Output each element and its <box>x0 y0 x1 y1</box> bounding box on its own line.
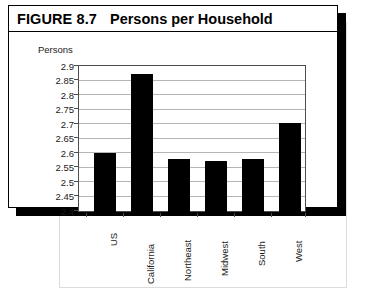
x-label-us: US <box>109 233 119 246</box>
x-label-california: California <box>146 244 156 284</box>
gridline <box>79 94 305 95</box>
x-tick-mark <box>123 213 124 217</box>
y-tick-label: 2.4 <box>61 207 74 217</box>
y-tick-mark <box>74 195 78 196</box>
y-tick-mark <box>74 108 78 109</box>
x-tick-mark <box>197 213 198 217</box>
gridline <box>79 138 305 139</box>
x-label-midwest: Midwest <box>220 241 230 276</box>
y-tick-label: 2.5 <box>61 178 74 188</box>
y-tick-mark <box>74 123 78 124</box>
y-tick-mark <box>74 166 78 167</box>
y-tick-mark <box>74 152 78 153</box>
bar-south <box>242 159 264 212</box>
y-tick-mark <box>74 137 78 138</box>
y-tick-label: 2.65 <box>56 134 75 144</box>
y-tick-label: 2.9 <box>61 62 74 72</box>
y-tick-mark <box>74 65 78 66</box>
gridline <box>79 109 305 110</box>
y-tick-label: 2.45 <box>56 192 75 202</box>
bar-us <box>94 153 116 212</box>
x-label-northeast: Northeast <box>183 240 193 281</box>
y-tick-mark <box>74 94 78 95</box>
gridline <box>79 80 305 81</box>
y-tick-label: 2.55 <box>56 163 75 173</box>
y-tick-mark <box>74 79 78 80</box>
x-tick-mark <box>160 213 161 217</box>
gridline <box>79 123 305 124</box>
x-label-west: West <box>294 241 304 262</box>
y-tick-label: 2.85 <box>56 76 75 86</box>
x-tick-mark <box>234 213 235 217</box>
bar-midwest <box>205 161 227 212</box>
x-tick-mark <box>305 213 306 217</box>
y-axis-tick-labels: 2.9 2.85 2.8 2.75 2.7 2.65 2.6 2.55 2.5 … <box>40 0 74 289</box>
y-tick-mark <box>74 181 78 182</box>
bar-california <box>131 74 153 212</box>
y-tick-label: 2.8 <box>61 91 74 101</box>
bar-west <box>279 123 301 212</box>
y-tick-label: 2.75 <box>56 105 75 115</box>
bar-chart: Persons 2.9 2.85 2.8 2.75 2.7 2.65 2.6 2… <box>0 0 369 289</box>
x-tick-mark <box>271 213 272 217</box>
x-tick-mark <box>86 213 87 217</box>
x-label-south: South <box>257 241 267 266</box>
y-tick-label: 2.6 <box>61 149 74 159</box>
bar-northeast <box>168 159 190 212</box>
y-tick-mark <box>74 210 78 211</box>
y-tick-label: 2.7 <box>61 120 74 130</box>
